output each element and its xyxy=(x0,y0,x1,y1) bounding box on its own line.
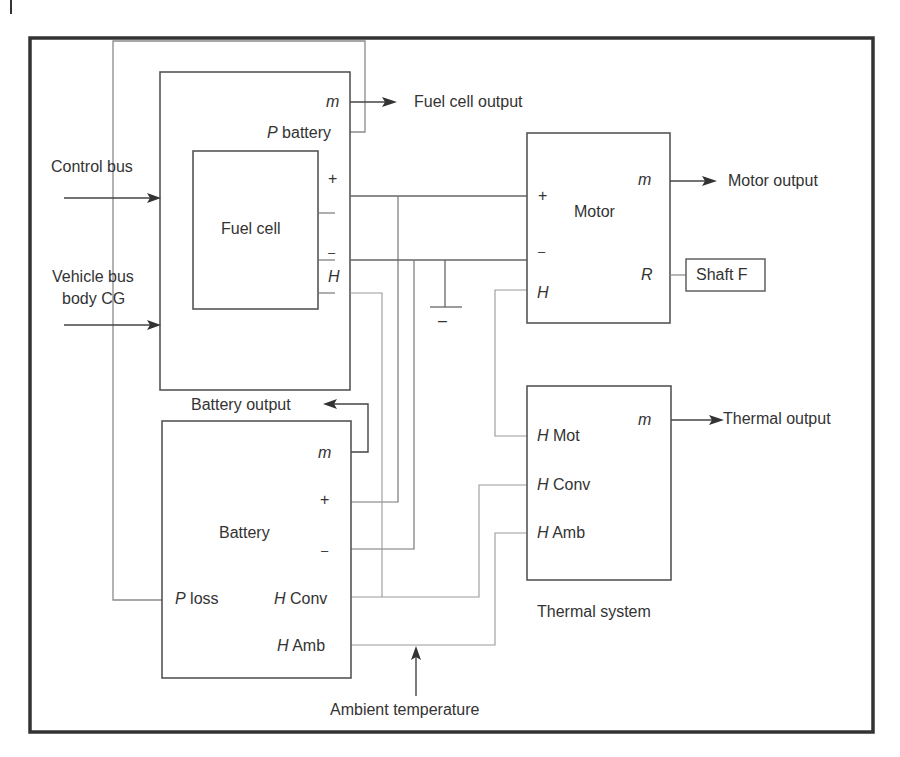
outer-frame xyxy=(30,38,873,732)
thermal-port-m: m xyxy=(638,411,651,429)
battery-port-m: m xyxy=(318,444,331,462)
h-mot-wire xyxy=(495,290,527,436)
shaft-f-label: Shaft F xyxy=(696,266,748,284)
battery-positive-wire xyxy=(351,196,398,502)
battery-port-plus: + xyxy=(320,491,329,509)
fc-heat-wire xyxy=(350,293,382,597)
thermal-port-h-mot: H Mot xyxy=(537,427,580,445)
battery-port-h-amb-symbol: H xyxy=(277,637,289,654)
battery-port-p-loss-symbol: P xyxy=(175,590,186,607)
fc-port-p-battery: P battery xyxy=(267,124,331,142)
vehicle-bus-label-line2: body CG xyxy=(62,290,125,308)
vehicle-bus-label-line1: Vehicle bus xyxy=(52,268,134,286)
battery-port-h-amb: H Amb xyxy=(277,637,325,655)
battery-output-label: Battery output xyxy=(191,396,291,414)
battery-port-h-conv: H Conv xyxy=(274,590,327,608)
battery-label: Battery xyxy=(219,524,270,542)
thermal-port-h-mot-symbol: H xyxy=(537,427,549,444)
ground-minus-label: – xyxy=(438,312,447,330)
thermal-port-h-amb-text: Amb xyxy=(549,524,585,541)
h-amb-wire xyxy=(351,533,527,645)
thermal-port-h-conv: H Conv xyxy=(537,476,590,494)
motor-port-m: m xyxy=(638,171,651,189)
thermal-port-h-conv-symbol: H xyxy=(537,476,549,493)
thermal-output-label: Thermal output xyxy=(723,410,831,428)
motor-port-plus: + xyxy=(538,187,547,205)
fuel-cell-label: Fuel cell xyxy=(221,220,281,238)
fc-port-m: m xyxy=(326,93,339,111)
motor-port-h: H xyxy=(537,284,549,302)
fc-port-minus: – xyxy=(328,244,335,262)
battery-port-h-conv-text: Conv xyxy=(286,590,328,607)
fuel-cell-output-label: Fuel cell output xyxy=(414,93,523,111)
motor-port-minus: – xyxy=(538,243,545,261)
fc-port-plus: + xyxy=(328,170,337,188)
control-bus-label: Control bus xyxy=(51,158,133,176)
thermal-port-h-conv-text: Conv xyxy=(549,476,591,493)
thermal-port-h-amb: H Amb xyxy=(537,524,585,542)
battery-port-p-loss-text: loss xyxy=(186,590,219,607)
diagram-canvas xyxy=(0,0,900,757)
thermal-port-h-amb-symbol: H xyxy=(537,524,549,541)
battery-port-minus: – xyxy=(321,542,328,560)
motor-port-r: R xyxy=(641,266,653,284)
thermal-system-label: Thermal system xyxy=(537,603,651,621)
ambient-temperature-label: Ambient temperature xyxy=(330,701,479,719)
thermal-port-h-mot-text: Mot xyxy=(549,427,580,444)
battery-port-h-conv-symbol: H xyxy=(274,590,286,607)
fc-port-p-battery-symbol: P xyxy=(267,124,278,141)
battery-port-h-amb-text: Amb xyxy=(289,637,325,654)
fc-port-p-battery-text: battery xyxy=(278,124,331,141)
fc-port-h: H xyxy=(328,268,340,286)
motor-label: Motor xyxy=(574,203,615,221)
battery-port-p-loss: P loss xyxy=(175,590,219,608)
motor-output-label: Motor output xyxy=(728,172,818,190)
